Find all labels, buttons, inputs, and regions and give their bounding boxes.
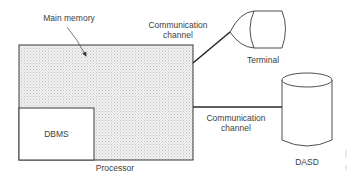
dasd-cylinder-icon [282, 73, 332, 146]
channel-top-label-line2: channel [138, 30, 218, 40]
dbms-label: DBMS [19, 129, 94, 139]
terminal-label: Terminal [238, 55, 288, 65]
channel-bottom-label-line2: channel [196, 123, 276, 133]
terminal-icon [230, 11, 286, 48]
processor-label: Processor [85, 163, 145, 173]
main-memory-label: Main memory [37, 13, 101, 23]
dasd-label: DASD [292, 157, 322, 167]
channel-top-label-line1: Communication [138, 20, 218, 30]
channel-bottom-label-line1: Communication [196, 113, 276, 123]
